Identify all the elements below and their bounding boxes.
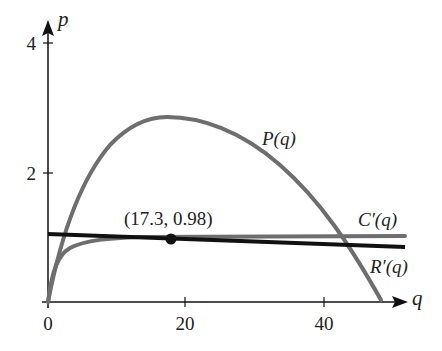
- y-tick-label-4: 4: [27, 33, 37, 54]
- c-prime-label: C′(q): [358, 209, 397, 231]
- r-prime-label: R′(q): [369, 256, 408, 278]
- x-tick-label-40: 40: [315, 313, 334, 334]
- point-label: (17.3, 0.98): [124, 208, 213, 230]
- x-axis-label: q: [412, 286, 423, 310]
- y-axis-label: p: [56, 7, 69, 31]
- chart: 0 20 40 2 4 q p P(q) C′(q) R′(q) (17.3, …: [0, 0, 442, 351]
- p-curve: [48, 117, 381, 302]
- x-tick-label-0: 0: [43, 313, 53, 334]
- intersection-point: [166, 234, 177, 245]
- y-tick-label-2: 2: [27, 163, 37, 184]
- x-tick-label-20: 20: [176, 313, 195, 334]
- p-curve-label: P(q): [261, 128, 296, 150]
